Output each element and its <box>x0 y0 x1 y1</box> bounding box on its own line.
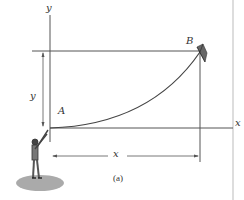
person-figure-icon <box>32 130 48 178</box>
y-dimension-arrow-bottom-icon <box>42 122 45 127</box>
diagram-canvas <box>0 0 244 200</box>
kite-string-curve <box>50 52 200 128</box>
point-a-label: A <box>58 106 65 116</box>
y-axis-label: y <box>46 3 52 13</box>
x-dimension-label: x <box>113 149 119 159</box>
x-axis-label: x <box>235 118 241 128</box>
figure-caption: (a) <box>113 174 123 183</box>
y-dimension-arrow-top-icon <box>42 52 45 57</box>
kite-icon <box>197 44 207 62</box>
y-dimension-label: y <box>30 91 36 101</box>
x-dimension-arrow-left-icon <box>52 155 57 158</box>
x-dimension-arrow-right-icon <box>194 155 199 158</box>
point-b-label: B <box>186 36 193 46</box>
